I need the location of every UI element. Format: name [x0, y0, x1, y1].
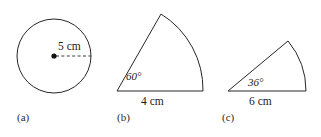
- panel-label-c: (c): [222, 111, 235, 124]
- geometry-figure: 5 cm (a) 60° 4 cm (b) 36° 6 cm (c): [0, 0, 321, 137]
- panel-c-sector-group: 36° 6 cm (c): [222, 41, 306, 124]
- circle-center-dot: [51, 53, 56, 58]
- sector-outline-c: [228, 41, 306, 91]
- sector-radius-label-c: 6 cm: [249, 95, 272, 107]
- panel-label-a: (a): [17, 111, 30, 124]
- sector-angle-label-c: 36°: [247, 76, 264, 88]
- panel-b-sector-group: 60° 4 cm (b): [117, 14, 203, 124]
- sector-angle-label-b: 60°: [126, 70, 142, 82]
- sector-radius-label-b: 4 cm: [141, 95, 164, 107]
- figure-canvas: 5 cm (a) 60° 4 cm (b) 36° 6 cm (c): [0, 0, 321, 137]
- panel-a-circle-group: 5 cm (a): [17, 19, 91, 124]
- panel-label-b: (b): [117, 111, 130, 124]
- circle-radius-label: 5 cm: [58, 40, 81, 52]
